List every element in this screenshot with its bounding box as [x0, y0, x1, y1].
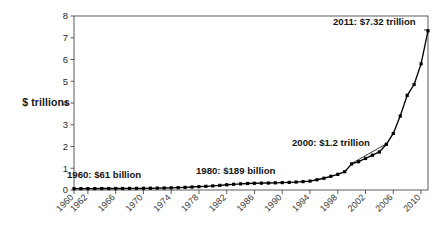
- x-tick-label: 1994: [290, 192, 311, 213]
- data-point-marker: [301, 180, 304, 183]
- data-point-marker: [295, 180, 298, 183]
- data-point-marker: [274, 181, 277, 184]
- y-axis-tick-labels: 012345678: [63, 10, 68, 195]
- y-tick-label: 4: [63, 97, 68, 108]
- data-point-marker: [79, 187, 82, 190]
- x-tick-label: 1998: [318, 192, 339, 213]
- data-point-marker: [406, 94, 409, 97]
- chart-container: $ trillions 012345678 196019621966197019…: [0, 0, 443, 232]
- data-point-marker: [378, 150, 381, 153]
- data-point-marker: [253, 182, 256, 185]
- plot-area: 012345678 196019621966197019741978198219…: [0, 0, 443, 232]
- data-point-marker: [100, 187, 103, 190]
- data-point-marker: [364, 157, 367, 160]
- data-point-marker: [128, 187, 131, 190]
- y-tick-label: 8: [63, 10, 68, 21]
- data-point-marker: [72, 187, 75, 190]
- data-point-marker: [107, 187, 110, 190]
- data-point-marker: [413, 83, 416, 86]
- annotation-2011: 2011: $7.32 trillion: [333, 17, 416, 27]
- y-tick-label: 6: [63, 54, 68, 65]
- data-point-marker: [183, 186, 186, 189]
- y-tick-label: 5: [63, 76, 68, 87]
- data-point-marker: [239, 182, 242, 185]
- x-tick-label: 2006: [373, 192, 394, 213]
- data-point-marker: [190, 185, 193, 188]
- data-point-marker: [419, 62, 422, 65]
- data-point-marker: [232, 183, 235, 186]
- data-point-marker: [288, 181, 291, 184]
- data-point-marker: [163, 186, 166, 189]
- data-point-marker: [211, 184, 214, 187]
- y-tick-label: 3: [63, 119, 68, 130]
- data-point-marker: [149, 187, 152, 190]
- data-point-marker: [336, 173, 339, 176]
- data-point-marker: [343, 170, 346, 173]
- x-tick-label: 2002: [346, 192, 367, 213]
- data-point-marker: [322, 177, 325, 180]
- data-point-marker: [246, 182, 249, 185]
- y-axis-ticks: [71, 16, 75, 190]
- data-point-marker: [204, 185, 207, 188]
- data-point-marker: [329, 175, 332, 178]
- data-point-marker: [177, 186, 180, 189]
- data-point-marker: [308, 179, 311, 182]
- data-point-marker: [121, 187, 124, 190]
- data-point-marker: [399, 114, 402, 117]
- x-tick-label: 2010: [401, 192, 422, 213]
- data-point-marker: [315, 178, 318, 181]
- data-point-marker: [142, 187, 145, 190]
- x-tick-label: 1978: [179, 192, 200, 213]
- data-point-marker: [267, 181, 270, 184]
- x-tick-label: 1982: [207, 192, 228, 213]
- x-tick-label: 1990: [262, 192, 283, 213]
- y-tick-label: 7: [63, 32, 68, 43]
- x-tick-label: 1970: [124, 192, 145, 213]
- plot-frame: [74, 16, 428, 190]
- x-tick-label: 1986: [235, 192, 256, 213]
- x-axis-tick-labels: 1960196219661970197419781982198619901994…: [54, 192, 422, 213]
- data-point-marker: [392, 132, 395, 135]
- data-point-marker: [86, 187, 89, 190]
- data-point-marker: [197, 185, 200, 188]
- x-tick-label: 1966: [96, 192, 117, 213]
- data-point-marker: [260, 182, 263, 185]
- annotation-1980: 1980: $189 billion: [196, 166, 275, 176]
- data-point-marker: [225, 183, 228, 186]
- y-tick-label: 2: [63, 141, 68, 152]
- data-point-marker: [93, 187, 96, 190]
- data-point-marker: [281, 181, 284, 184]
- annotation-1960: 1960: $61 billion: [67, 170, 141, 180]
- data-point-marker: [114, 187, 117, 190]
- annotation-2000: 2000: $1.2 trillion: [292, 138, 370, 148]
- data-point-marker: [218, 184, 221, 187]
- x-tick-label: 1974: [151, 192, 172, 213]
- data-point-marker: [371, 154, 374, 157]
- data-point-marker: [135, 187, 138, 190]
- data-point-marker: [170, 186, 173, 189]
- data-point-marker: [156, 187, 159, 190]
